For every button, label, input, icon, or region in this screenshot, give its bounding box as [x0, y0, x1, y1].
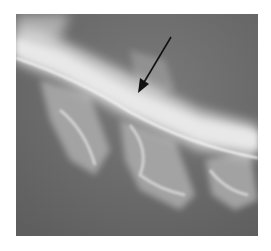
xray-image	[16, 14, 258, 236]
xray-illustration	[16, 14, 258, 236]
